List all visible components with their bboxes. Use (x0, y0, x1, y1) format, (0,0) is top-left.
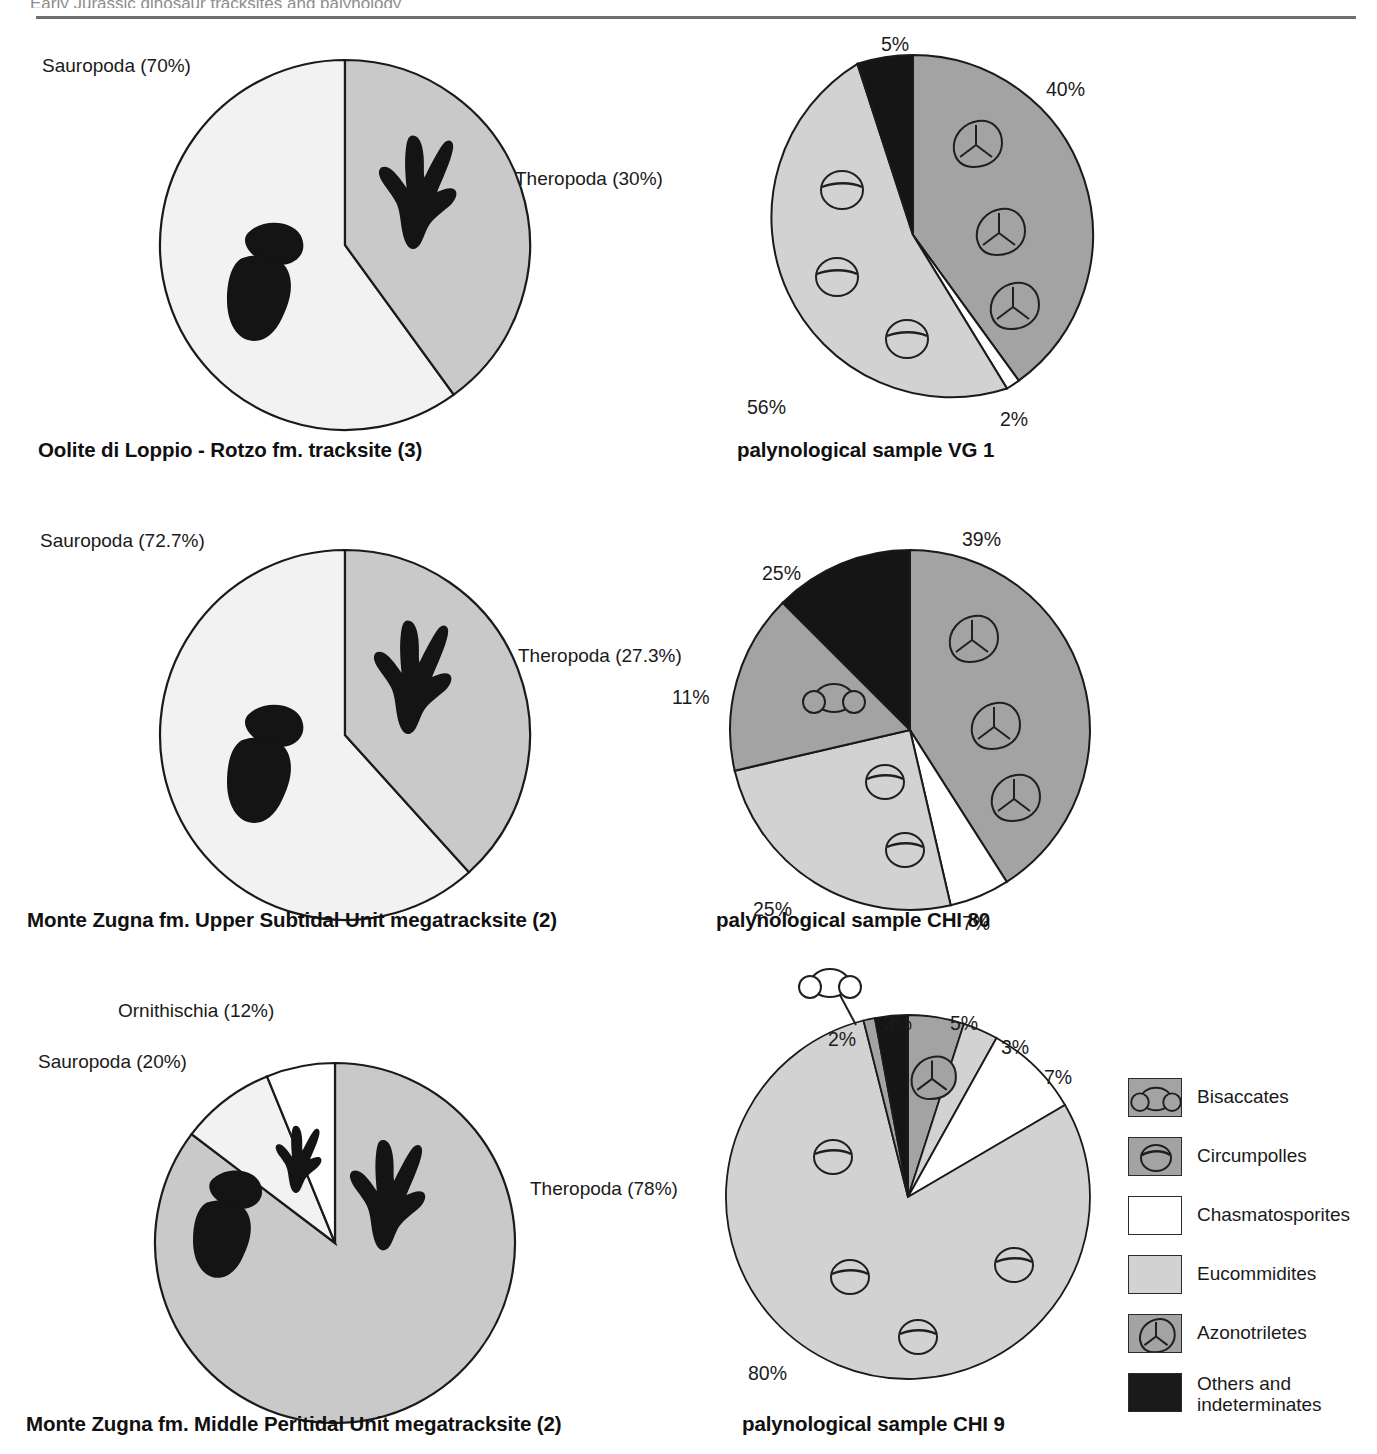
legend-swatch-eucommidites (1128, 1255, 1182, 1294)
pct-label-bisaccates-chi80: 11% (672, 686, 710, 709)
circumpolles-pollen-icon (995, 1248, 1033, 1282)
circumpolles-pollen-icon (886, 833, 924, 867)
label-sauropoda-oolite: Sauropoda (70%) (42, 55, 191, 77)
legend-swatch-bisaccates (1128, 1078, 1182, 1117)
legend-label-bisaccates: Bisaccates (1197, 1078, 1289, 1107)
legend-swatch-azonotriletes (1128, 1314, 1182, 1353)
caption-upper-subtidal: Monte Zugna fm. Upper Subtidal Unit mega… (27, 908, 557, 932)
pct-label-chasmatosporites-vg1: 2% (1000, 408, 1028, 431)
pct-label-chasmatosporites-chi9: 7% (1044, 1066, 1072, 1089)
bisaccate-pollen-icon (1129, 1079, 1182, 1117)
pie-svg-tracksite-oolite (155, 55, 535, 435)
pie-vg-1 (728, 50, 1098, 420)
pct-label-others-vg1: 5% (881, 33, 909, 56)
legend-swatch-others (1128, 1373, 1182, 1412)
legend-label-eucommidites: Eucommidites (1197, 1255, 1316, 1284)
running-head: Early Jurassic dinosaur tracksites and p… (30, 0, 1030, 8)
legend-row-eucommidites: Eucommidites (1128, 1255, 1368, 1299)
pct-label-circumpolles-vg1: 56% (747, 396, 786, 419)
pie-svg-vg-1 (728, 50, 1098, 420)
label-theropoda-middle-peritidal: Theropoda (78%) (530, 1178, 678, 1200)
pie-tracksite-middle-peritidal (140, 1058, 530, 1428)
header-rule (36, 16, 1356, 19)
circumpolles-pollen-icon (821, 171, 863, 209)
caption-chi-80: palynological sample CHI 80 (716, 908, 990, 932)
pct-label-azonotriletes-vg1: 40% (1046, 78, 1085, 101)
circumpolles-pollen-icon (899, 1320, 937, 1354)
pie-tracksite-upper-subtidal (155, 545, 535, 925)
pct-label-azonotriletes-chi9: 5% (950, 1012, 978, 1035)
legend-row-azonotriletes: Azonotriletes (1128, 1314, 1368, 1358)
caption-vg-1: palynological sample VG 1 (737, 438, 994, 462)
pct-label-others-chi9: 3% (884, 1012, 912, 1035)
label-theropoda-oolite: Theropoda (30%) (515, 168, 663, 190)
pct-label-azonotriletes-chi80: 39% (962, 528, 1001, 551)
caption-middle-peritidal: Monte Zugna fm. Middle Peritidal Unit me… (26, 1412, 562, 1436)
figure-page: Early Jurassic dinosaur tracksites and p… (0, 0, 1377, 1454)
pct-label-bisaccates-chi9: 2% (828, 1028, 856, 1051)
pie-svg-chi-80 (725, 545, 1095, 915)
legend-swatch-chasmatosporites (1128, 1196, 1182, 1235)
pie-svg-chi-9 (716, 1005, 1101, 1390)
legend-row-others: Others and indeterminates (1128, 1373, 1368, 1417)
legend-label-others: Others and indeterminates (1197, 1373, 1322, 1415)
pie-chi-9 (716, 1005, 1101, 1390)
label-ornithischia-middle-peritidal: Ornithischia (12%) (118, 1000, 274, 1022)
pct-label-others-chi80: 25% (762, 562, 801, 585)
caption-chi-9: palynological sample CHI 9 (742, 1412, 1005, 1436)
bisaccate-pollen-icon (795, 960, 865, 1004)
label-sauropoda-upper-subtidal: Sauropoda (72.7%) (40, 530, 205, 552)
legend-row-circumpolles: Circumpolles (1128, 1137, 1368, 1181)
pct-label-circumpolles-chi9: 80% (748, 1362, 787, 1385)
pct-label-eucommidites-chi9: 3% (1001, 1036, 1029, 1059)
pie-svg-tracksite-upper-subtidal (155, 545, 535, 925)
legend-swatch-circumpolles (1128, 1137, 1182, 1176)
caption-tracksite-oolite: Oolite di Loppio - Rotzo fm. tracksite (… (38, 438, 422, 462)
legend-label-chasmatosporites: Chasmatosporites (1197, 1196, 1350, 1225)
label-theropoda-upper-subtidal: Theropoda (27.3%) (518, 645, 682, 667)
circumpolles-pollen-icon (866, 765, 904, 799)
legend-row-chasmatosporites: Chasmatosporites (1128, 1196, 1368, 1240)
legend-row-bisaccates: Bisaccates (1128, 1078, 1368, 1122)
legend: Bisaccates Circumpolles Chasmatosporites… (1128, 1078, 1368, 1432)
legend-label-circumpolles: Circumpolles (1197, 1137, 1307, 1166)
circumpolles-pollen-icon (816, 258, 858, 296)
circumpolles-pollen-icon (831, 1260, 869, 1294)
azonotriletes-spore-icon (1129, 1315, 1182, 1353)
circumpolles-pollen-icon (1129, 1138, 1182, 1176)
circumpolles-pollen-icon (886, 320, 928, 358)
circumpolles-pollen-icon (814, 1140, 852, 1174)
legend-label-azonotriletes: Azonotriletes (1197, 1314, 1307, 1343)
pie-tracksite-oolite (155, 55, 535, 435)
pie-chi-80 (725, 545, 1095, 915)
label-sauropoda-middle-peritidal: Sauropoda (20%) (38, 1051, 187, 1073)
pie-svg-tracksite-middle-peritidal (140, 1058, 530, 1428)
